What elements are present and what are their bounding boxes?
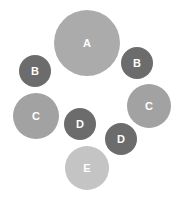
node-label: E — [83, 162, 90, 174]
node-c2: C — [127, 84, 171, 128]
node-b2: B — [121, 47, 153, 79]
node-d1: D — [64, 108, 96, 140]
node-e: E — [65, 146, 109, 190]
node-d2: D — [105, 123, 137, 155]
node-label: D — [117, 133, 125, 145]
node-label: C — [145, 100, 153, 112]
node-b1: B — [19, 55, 51, 87]
node-label: D — [76, 118, 84, 130]
node-c1: C — [13, 93, 59, 139]
node-a: A — [54, 10, 120, 76]
node-label: B — [133, 57, 141, 69]
node-label: C — [32, 110, 40, 122]
node-label: A — [83, 37, 91, 49]
node-label: B — [31, 65, 39, 77]
